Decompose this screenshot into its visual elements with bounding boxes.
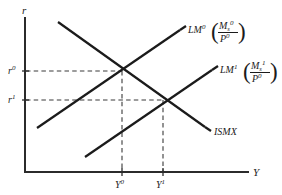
- paren-open-lm0: (: [211, 19, 219, 44]
- curve-label-ismx: ISMX: [213, 126, 238, 137]
- lm0-numerator: Ms0: [218, 19, 234, 32]
- islm-chart: r Y r0 r1 Y0 Y1 LM0 ( Ms0 P0 ) LM1 ( Ms1…: [0, 0, 282, 195]
- lm0-denominator: P0: [219, 32, 230, 44]
- curve-label-lm1-text: LM1: [219, 63, 237, 75]
- figure-canvas: r Y r0 r1 Y0 Y1 LM0 ( Ms0 P0 ) LM1 ( Ms1…: [0, 0, 282, 195]
- y-axis-label: r: [22, 4, 27, 16]
- curve-label-lm0-text: LM0: [187, 23, 206, 35]
- tick-label-r0: r0: [8, 64, 16, 76]
- paren-open-lm1: (: [243, 59, 251, 84]
- leader-lm0: [180, 26, 186, 30]
- leader-ismx: [205, 127, 211, 131]
- curve-label-lm1: LM1 ( Ms1 P0 ): [219, 59, 278, 84]
- curve-ismx: [58, 22, 205, 127]
- lm1-numerator: Ms1: [250, 59, 265, 72]
- tick-label-y1: Y1: [156, 178, 165, 190]
- paren-close-lm0: ): [238, 19, 246, 44]
- tick-label-r1: r1: [8, 93, 15, 105]
- leader-lm1: [212, 66, 218, 70]
- lm1-denominator: P0: [251, 72, 262, 84]
- curve-label-lm0: LM0 ( Ms0 P0 ): [187, 19, 246, 44]
- tick-label-y0: Y0: [115, 178, 125, 190]
- curve-lm0: [37, 30, 180, 128]
- x-axis-label: Y: [253, 166, 261, 178]
- paren-close-lm1: ): [270, 59, 278, 84]
